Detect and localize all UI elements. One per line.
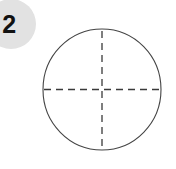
figure-canvas: 2 <box>0 0 176 169</box>
badge-label: 2 <box>0 11 20 37</box>
figure-drawing <box>0 0 176 169</box>
